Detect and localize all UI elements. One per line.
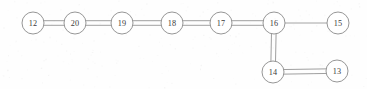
node-20: 20 <box>64 12 86 34</box>
node-label-16: 16 <box>270 19 279 28</box>
edge-14-13 <box>284 69 327 74</box>
node-label-19: 19 <box>118 19 127 28</box>
node-14: 14 <box>262 61 284 83</box>
node-13: 13 <box>326 60 348 82</box>
node-12: 12 <box>22 12 44 34</box>
node-label-18: 18 <box>168 19 177 28</box>
node-label-17: 17 <box>217 19 226 28</box>
edge-segment-14-13-0 <box>284 69 326 70</box>
edge-16-14 <box>271 34 276 62</box>
node-17: 17 <box>210 12 232 34</box>
graph-canvas: 122019181716151413 <box>0 0 367 89</box>
graph-diagram: 122019181716151413 <box>0 0 367 89</box>
node-15: 15 <box>327 12 349 34</box>
node-18: 18 <box>161 12 183 34</box>
node-label-14: 14 <box>269 68 278 77</box>
edge-segment-16-14-1 <box>271 34 272 61</box>
node-label-15: 15 <box>334 19 343 28</box>
edge-17-16 <box>232 21 263 26</box>
edge-12-20 <box>44 21 64 26</box>
edge-18-17 <box>183 21 210 26</box>
node-19: 19 <box>111 12 133 34</box>
edge-20-19 <box>86 21 111 26</box>
node-label-20: 20 <box>71 19 80 28</box>
edges-layer <box>44 21 327 74</box>
node-label-12: 12 <box>29 19 38 28</box>
edge-segment-16-14-0 <box>276 34 277 61</box>
node-16: 16 <box>263 12 285 34</box>
node-label-13: 13 <box>333 67 342 76</box>
edge-segment-14-13-1 <box>284 73 326 74</box>
edge-19-18 <box>133 21 161 26</box>
